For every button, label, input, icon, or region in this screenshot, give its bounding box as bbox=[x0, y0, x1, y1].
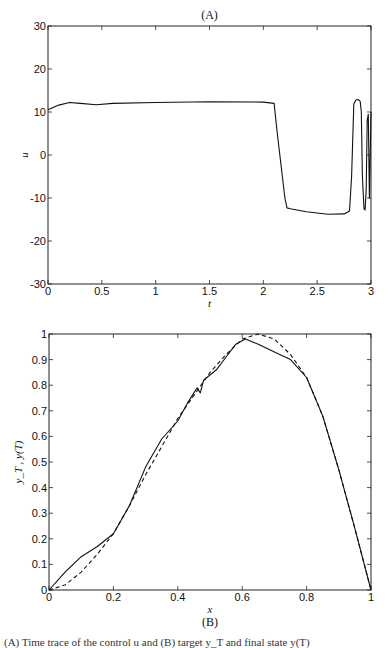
y-tick-label: 0.2 bbox=[32, 533, 47, 545]
x-tick-label: 0.2 bbox=[106, 591, 121, 603]
y-axis-label: y_T , y(T) bbox=[12, 440, 25, 484]
x-tick-label: 0.8 bbox=[299, 591, 314, 603]
y-tick-label: 0.5 bbox=[32, 456, 47, 468]
series-line-u bbox=[48, 100, 371, 215]
figure-caption: (A) Time trace of the control u and (B) … bbox=[4, 636, 389, 648]
y-tick-label: 0.7 bbox=[32, 405, 47, 417]
x-tick-label: 0.5 bbox=[94, 285, 109, 297]
y-tick-label: 0.3 bbox=[32, 507, 47, 519]
x-tick-label: 2.5 bbox=[310, 285, 325, 297]
y-tick-label: 0 bbox=[40, 149, 46, 161]
y-tick-label: 0.1 bbox=[32, 558, 47, 570]
y-tick-label: 0 bbox=[41, 584, 47, 596]
x-tick-label: 1 bbox=[368, 591, 374, 603]
x-tick-label: 2 bbox=[260, 285, 266, 297]
y-tick-label: 30 bbox=[34, 20, 46, 32]
x-tick-label: 0.6 bbox=[235, 591, 250, 603]
y-tick-label: 1 bbox=[41, 328, 47, 340]
y-tick-label: 0.6 bbox=[32, 430, 47, 442]
plot-frame bbox=[48, 26, 371, 284]
series-line-y-t bbox=[49, 334, 371, 590]
y-axis-label: u bbox=[18, 152, 30, 158]
x-tick-label: 1.5 bbox=[202, 285, 217, 297]
series-line-y-t- bbox=[49, 339, 371, 590]
x-axis-label: x bbox=[207, 603, 213, 615]
x-tick-label: 3 bbox=[368, 285, 374, 297]
chart-b: 00.20.40.60.8100.10.20.30.40.50.60.70.80… bbox=[12, 328, 374, 629]
x-tick-label: 0.4 bbox=[170, 591, 185, 603]
y-tick-label: 0.8 bbox=[32, 379, 47, 391]
y-tick-label: 0.4 bbox=[32, 482, 47, 494]
y-tick-label: -10 bbox=[30, 192, 46, 204]
y-tick-label: 20 bbox=[34, 63, 46, 75]
y-tick-label: 10 bbox=[34, 106, 46, 118]
x-axis-label: t bbox=[208, 297, 212, 309]
x-tick-label: 1 bbox=[153, 285, 159, 297]
chart-a: 00.511.522.53-30-20-100102030(A)tu bbox=[18, 8, 374, 309]
y-tick-label: -20 bbox=[30, 235, 46, 247]
y-tick-label: -30 bbox=[30, 278, 46, 290]
panel-label: (A) bbox=[201, 8, 218, 22]
panel-label: (B) bbox=[202, 615, 218, 629]
y-tick-label: 0.9 bbox=[32, 354, 47, 366]
